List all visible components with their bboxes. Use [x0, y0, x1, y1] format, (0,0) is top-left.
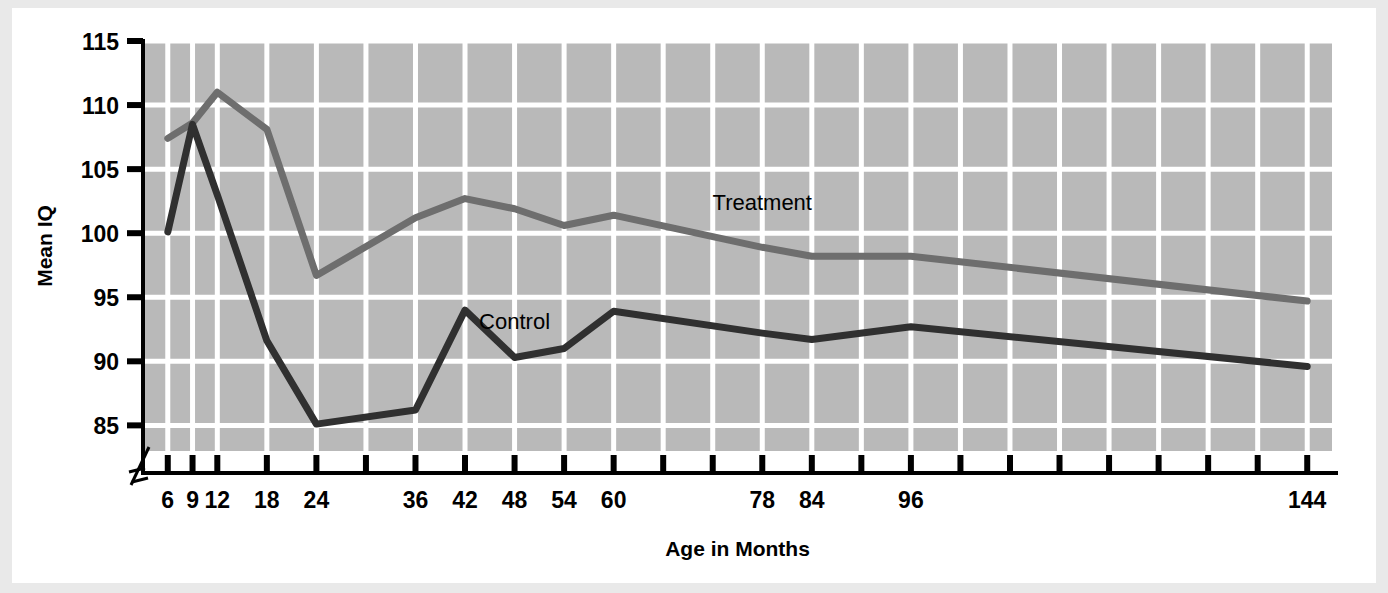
y-axis-label: Mean IQ [33, 205, 56, 287]
x-axis-tick-label: 96 [898, 487, 924, 513]
x-axis-tick-label: 144 [1288, 487, 1327, 513]
plot-background [143, 41, 1332, 451]
y-axis-tick-label: 100 [81, 221, 119, 247]
x-axis-tick-label: 84 [799, 487, 825, 513]
y-axis-tick-label: 85 [93, 413, 119, 439]
plot-background-group [143, 41, 1332, 451]
x-axis-tick-label: 6 [161, 487, 174, 513]
y-axis-tick-labels: 859095100105110115 [81, 29, 120, 439]
y-axis-tick-label: 110 [82, 93, 119, 119]
y-axis-tick-label: 90 [93, 349, 119, 375]
chart-canvas: 859095100105110115 691218243642485460788… [12, 8, 1376, 583]
x-axis-tick-labels: 691218243642485460788496144 [161, 487, 1326, 513]
x-axis-tick-label: 36 [403, 487, 429, 513]
x-axis-label: Age in Months [665, 537, 810, 560]
y-axis: 859095100105110115 [81, 29, 143, 473]
axis-break-icon [129, 447, 149, 485]
series-label-treatment: Treatment [713, 190, 812, 215]
y-axis-tick-label: 105 [81, 157, 120, 183]
y-axis-tick-label: 95 [93, 285, 119, 311]
x-axis-tick-label: 48 [502, 487, 528, 513]
x-axis-tick-label: 60 [601, 487, 627, 513]
x-axis-tick-label: 18 [254, 487, 280, 513]
y-axis-tick-label: 115 [82, 29, 119, 55]
x-axis-tick-label: 12 [205, 487, 231, 513]
x-axis-tick-label: 9 [186, 487, 199, 513]
x-axis-tick-label: 24 [304, 487, 330, 513]
x-axis: 691218243642485460788496144 [129, 447, 1338, 513]
figure-card: 859095100105110115 691218243642485460788… [12, 8, 1376, 583]
x-axis-tick-label: 78 [749, 487, 775, 513]
series-label-control: Control [479, 309, 550, 334]
x-axis-tick-label: 42 [452, 487, 478, 513]
line-chart: 859095100105110115 691218243642485460788… [12, 8, 1376, 583]
x-axis-ticks [168, 455, 1307, 473]
y-axis-ticks [127, 41, 143, 425]
x-axis-tick-label: 54 [551, 487, 577, 513]
